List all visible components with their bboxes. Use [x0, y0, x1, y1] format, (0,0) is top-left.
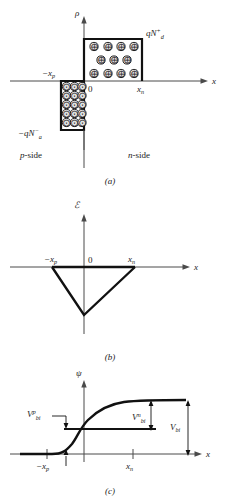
svg-text:⨀: ⨀ [71, 110, 78, 118]
svg-text:⨀: ⨀ [79, 101, 86, 109]
panel-b-electric-field: (a) ℰ x 0 −xp xn [0, 172, 234, 344]
panel-b-letter: (b) [105, 352, 116, 362]
field-triangle [52, 267, 135, 315]
xn-label-b: xn [127, 254, 135, 265]
svg-text:⨁: ⨁ [105, 70, 112, 78]
psi-x-axis-arrowhead [195, 451, 203, 456]
svg-text:⨀: ⨀ [71, 101, 78, 109]
svg-text:⨀: ⨀ [71, 92, 78, 100]
x-axis-label-b: x [193, 262, 198, 272]
svg-text:⨁: ⨁ [91, 43, 98, 51]
vbi-label: Vbi [170, 422, 181, 433]
panel-c-letter: (c) [105, 486, 115, 496]
origin-label-a: 0 [88, 84, 93, 94]
minus-xp-label-c: −xp [36, 461, 49, 472]
xn-label-c: xn [125, 461, 133, 472]
panel-b-svg: (a) ℰ x 0 −xp xn [0, 172, 234, 344]
svg-text:⨁: ⨁ [111, 56, 118, 64]
donor-charge-symbols: ⨁ ⨁ ⨁ ⨁ ⨁ ⨁ ⨁ ⨁ ⨁ ⨁ ⨁ [90, 42, 138, 77]
svg-text:⨁: ⨁ [131, 70, 138, 78]
x-axis-label-a: x [211, 76, 216, 86]
svg-text:⨀: ⨀ [71, 119, 78, 127]
svg-text:⨀: ⨀ [63, 110, 70, 118]
x-axis-label-c: x [205, 449, 210, 459]
rho-y-axis-arrowhead [81, 16, 86, 24]
vbi-arrowhead-down [186, 450, 191, 456]
svg-text:⨁: ⨁ [124, 56, 131, 64]
psi-y-axis-arrowhead [81, 380, 86, 388]
field-axis-label: ℰ [74, 200, 81, 210]
svg-text:⨀: ⨀ [63, 101, 70, 109]
vbi-arrowhead-up [186, 400, 191, 406]
panel-c-potential: (b) ψ x −xp xn Vpbi Vnbi [0, 344, 234, 502]
potential-curve [20, 400, 186, 454]
panel-a-letter: (a) [105, 176, 116, 186]
svg-text:⨁: ⨁ [98, 56, 105, 64]
donor-charge-label: qN+d [146, 27, 165, 40]
vbi-p-label: Vpbi [27, 408, 41, 422]
psi-axis-label: ψ [76, 368, 82, 378]
svg-text:⨀: ⨀ [63, 83, 70, 91]
minus-xp-label-a: −xp [42, 68, 55, 79]
svg-text:⨀: ⨀ [79, 110, 86, 118]
svg-text:⨀: ⨀ [79, 92, 86, 100]
acceptor-charge-label: −qN−a [18, 127, 42, 140]
xn-label-a: xn [136, 84, 144, 95]
svg-text:⨀: ⨀ [79, 119, 86, 127]
svg-text:⨀: ⨀ [63, 119, 70, 127]
n-side-label: n-side [128, 150, 150, 160]
svg-text:⨀: ⨀ [79, 83, 86, 91]
panel-a-charge-density: ⨁ ⨁ ⨁ ⨁ ⨁ ⨁ ⨁ ⨁ ⨁ ⨁ ⨁ ⨀ ⨀ ⨀ ⨀ ⨀ ⨀ ⨀ ⨀ ⨀ … [0, 0, 234, 172]
svg-text:⨁: ⨁ [131, 43, 138, 51]
rho-x-axis-arrowhead [201, 78, 209, 83]
acceptor-charge-symbols: ⨀ ⨀ ⨀ ⨀ ⨀ ⨀ ⨀ ⨀ ⨀ ⨀ ⨀ ⨀ ⨀ ⨀ ⨀ [62, 82, 86, 126]
minus-xp-label-b: −xp [44, 254, 57, 265]
svg-text:⨁: ⨁ [91, 70, 98, 78]
svg-text:⨁: ⨁ [118, 43, 125, 51]
panel-a-svg: ⨁ ⨁ ⨁ ⨁ ⨁ ⨁ ⨁ ⨁ ⨁ ⨁ ⨁ ⨀ ⨀ ⨀ ⨀ ⨀ ⨀ ⨀ ⨀ ⨀ … [0, 0, 234, 172]
vbi-n-label: Vnbi [132, 411, 146, 425]
vbi-p-leader [52, 416, 66, 424]
origin-label-b: 0 [88, 255, 93, 265]
panel-c-svg: (b) ψ x −xp xn Vpbi Vnbi [0, 344, 234, 502]
svg-text:⨀: ⨀ [71, 83, 78, 91]
rho-axis-label: ρ [74, 8, 80, 18]
p-side-label: p-side [19, 150, 42, 160]
svg-text:⨁: ⨁ [118, 70, 125, 78]
svg-text:⨁: ⨁ [105, 43, 112, 51]
field-y-axis-arrowhead [81, 214, 86, 222]
svg-text:⨀: ⨀ [63, 92, 70, 100]
field-x-axis-arrowhead [183, 264, 191, 269]
